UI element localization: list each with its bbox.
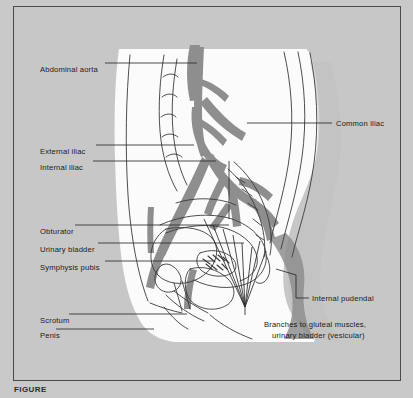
figure-box: Abdominal aorta External iliac Internal …	[13, 6, 401, 381]
label-symphysis-pubis: Symphysis pubis	[40, 263, 100, 273]
label-scrotum: Scrotum	[40, 316, 70, 326]
label-internal-pudendal: Internal pudendal	[312, 294, 374, 304]
label-gluteal-branches-line1: Branches to gluteal muscles,	[264, 320, 366, 330]
label-external-iliac: External iliac	[40, 147, 86, 157]
label-gluteal-branches-line2: urinary bladder (vesicular)	[272, 331, 365, 341]
label-penis: Penis	[40, 331, 60, 341]
label-abdominal-aorta: Abdominal aorta	[40, 65, 98, 75]
figure-root: Abdominal aorta External iliac Internal …	[0, 0, 413, 398]
figure-caption: FIGURE	[14, 385, 47, 394]
label-obturator: Obturator	[40, 227, 74, 237]
label-internal-iliac: Internal iliac	[40, 163, 83, 173]
label-urinary-bladder: Urinary bladder	[40, 245, 95, 255]
label-common-iliac: Common iliac	[336, 119, 384, 129]
